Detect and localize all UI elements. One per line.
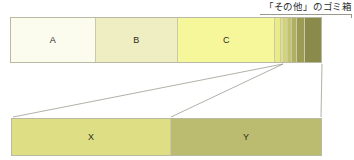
bar-segment-other-6[interactable] (297, 18, 304, 62)
leader-line-middle (171, 64, 283, 117)
bar-segment-a[interactable]: A (11, 18, 96, 62)
callout-underline (260, 14, 352, 15)
expanded-detail-bar[interactable]: X Y (11, 118, 322, 156)
bar-segment-other-7[interactable] (305, 18, 321, 62)
figure-canvas: 「その他」のゴミ箱 A B C X Y (0, 0, 354, 160)
bar-segment-c[interactable]: C (178, 18, 275, 62)
bar-segment-b[interactable]: B (96, 18, 178, 62)
main-distribution-bar[interactable]: A B C (10, 17, 322, 63)
leader-line-left (13, 64, 283, 117)
bar-segment-y[interactable]: Y (171, 119, 321, 155)
leader-line-right (321, 64, 322, 117)
bar-segment-y-label: Y (243, 132, 249, 142)
bar-segment-x-label: X (88, 132, 94, 142)
bar-segment-x[interactable]: X (12, 119, 171, 155)
bar-segment-b-label: B (133, 35, 139, 45)
callout-tick-icon (351, 14, 352, 18)
callout-label: 「その他」のゴミ箱 (264, 1, 352, 13)
bar-segment-a-label: A (50, 35, 56, 45)
bar-segment-c-label: C (223, 35, 230, 45)
